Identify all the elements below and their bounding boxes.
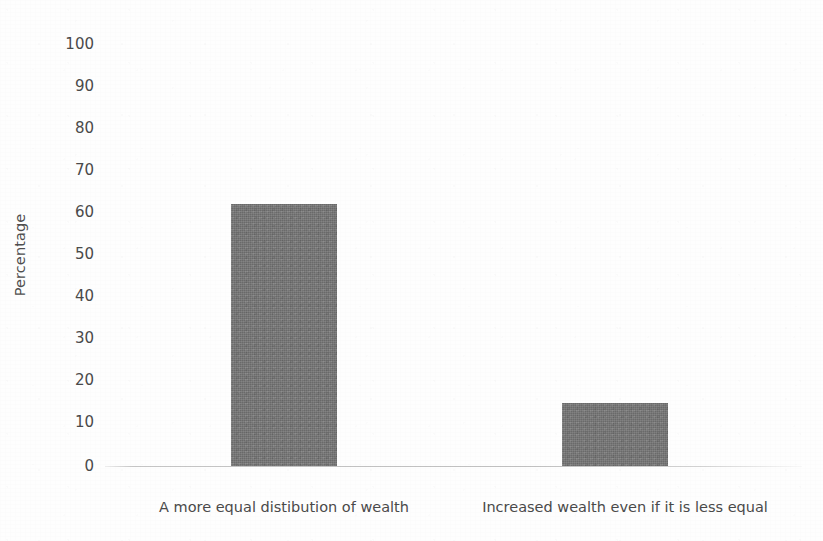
y-tick-40: 40 (48, 289, 94, 304)
y-tick-70: 70 (48, 163, 94, 178)
y-tick-60: 60 (48, 205, 94, 220)
x-axis-baseline (105, 466, 802, 467)
y-tick-100: 100 (48, 37, 94, 52)
y-tick-30: 30 (48, 331, 94, 346)
y-tick-80: 80 (48, 121, 94, 136)
bar-increased-wealth-even-if-less-equal (562, 403, 668, 466)
y-axis-title: Percentage (12, 200, 32, 310)
y-tick-90: 90 (48, 79, 94, 94)
chart-canvas: Percentage 100 90 80 70 60 50 40 30 20 1… (0, 0, 823, 541)
y-tick-50: 50 (48, 247, 94, 262)
bar-a-more-equal-distribution-of-wealth (231, 204, 337, 466)
x-axis-label-2: Increased wealth even if it is less equa… (455, 500, 795, 515)
plot-area: Percentage 100 90 80 70 60 50 40 30 20 1… (0, 0, 823, 541)
y-tick-10: 10 (48, 415, 94, 430)
y-axis-ticks: 100 90 80 70 60 50 40 30 20 10 0 (48, 0, 94, 541)
y-tick-0: 0 (48, 459, 94, 474)
x-axis-label-1: A more equal distibution of wealth (124, 500, 444, 515)
y-tick-20: 20 (48, 373, 94, 388)
